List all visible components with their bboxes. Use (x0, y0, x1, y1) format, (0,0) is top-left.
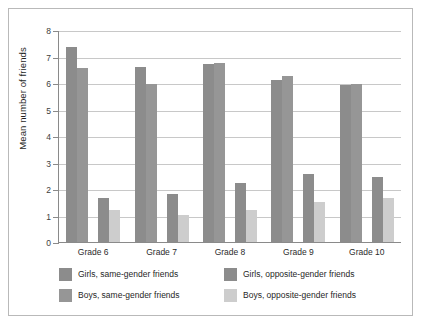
y-axis-title: Mean number of friends (17, 24, 28, 174)
y-axis-tick-mark (53, 84, 58, 85)
chart-legend: Girls, same-gender friendsGirls, opposit… (59, 267, 404, 309)
bar (146, 84, 157, 243)
legend-swatch (59, 268, 72, 281)
legend-swatch (224, 289, 237, 302)
y-axis-tick-label: 7 (31, 54, 51, 63)
bar (314, 202, 325, 243)
x-axis-tick-label: Grade 6 (59, 247, 127, 257)
legend-label: Girls, same-gender friends (78, 270, 178, 279)
bar-group (127, 31, 195, 243)
bar (66, 47, 77, 243)
legend-item: Boys, same-gender friends (59, 288, 180, 302)
y-axis-tick-mark (53, 164, 58, 165)
y-axis-tick-mark (53, 111, 58, 112)
x-axis-tick-label: Grade 10 (333, 247, 401, 257)
bar (235, 183, 246, 243)
bar-group (196, 31, 264, 243)
bar (135, 67, 146, 243)
bar (246, 210, 257, 243)
bar-group (59, 31, 127, 243)
legend-item: Girls, same-gender friends (59, 267, 178, 281)
y-axis-tick-mark (53, 58, 58, 59)
bar (340, 85, 351, 243)
legend-label: Girls, opposite-gender friends (243, 270, 355, 279)
legend-item: Boys, opposite-gender friends (224, 288, 356, 302)
y-axis-tick-label: 0 (31, 239, 51, 248)
y-axis-tick-mark (53, 137, 58, 138)
x-axis-tick-label: Grade 9 (264, 247, 332, 257)
bar-group (264, 31, 332, 243)
bar (271, 80, 282, 243)
bar (303, 174, 314, 243)
x-axis-line (59, 242, 401, 243)
legend-label: Boys, same-gender friends (78, 291, 180, 300)
bar (372, 177, 383, 243)
bar (109, 210, 120, 243)
y-axis-tick-mark (53, 31, 58, 32)
y-axis-tick-mark (53, 190, 58, 191)
y-axis-tick-label: 5 (31, 107, 51, 116)
y-axis-tick-label: 1 (31, 213, 51, 222)
bar (98, 198, 109, 243)
x-axis-tick-labels: Grade 6Grade 7Grade 8Grade 9Grade 10 (59, 247, 401, 261)
bar-group (333, 31, 401, 243)
y-axis-tick-label: 6 (31, 80, 51, 89)
y-axis-tick-labels: 012345678 (25, 9, 51, 317)
bar (167, 194, 178, 243)
bar (77, 68, 88, 243)
bar (351, 84, 362, 243)
y-axis-tick-label: 2 (31, 186, 51, 195)
y-axis-tick-label: 8 (31, 27, 51, 36)
y-axis-tick-mark (53, 243, 58, 244)
plot-area (59, 31, 401, 243)
legend-swatch (59, 289, 72, 302)
legend-swatch (224, 268, 237, 281)
y-axis-tick-mark (53, 217, 58, 218)
y-axis-tick-label: 3 (31, 160, 51, 169)
x-axis-tick-label: Grade 8 (196, 247, 264, 257)
y-axis-tick-label: 4 (31, 133, 51, 142)
x-axis-tick-label: Grade 7 (127, 247, 195, 257)
legend-item: Girls, opposite-gender friends (224, 267, 355, 281)
bar (178, 215, 189, 243)
bar (282, 76, 293, 243)
bar (383, 198, 394, 243)
bar (203, 64, 214, 243)
bar (214, 63, 225, 243)
chart-figure: 012345678 Mean number of friends Grade 6… (8, 8, 413, 316)
legend-label: Boys, opposite-gender friends (243, 291, 356, 300)
